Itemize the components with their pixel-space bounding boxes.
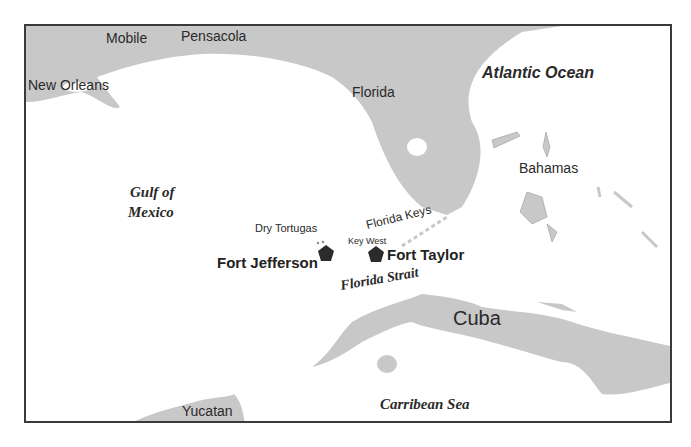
- dry-tortugas-islands: [322, 241, 324, 243]
- label-pensacola: Pensacola: [181, 28, 246, 44]
- label-cuba: Cuba: [453, 307, 501, 330]
- label-new-orleans: New Orleans: [28, 77, 109, 93]
- label-gulf-of-mexico-line1: Gulf of: [130, 184, 175, 201]
- label-caribbean-sea: Carribean Sea: [380, 396, 470, 413]
- lake-okeechobee: [407, 138, 427, 156]
- fort-jefferson-marker: [318, 245, 334, 261]
- bahamas-island: [547, 224, 557, 242]
- bahamas-island: [492, 132, 520, 148]
- us-mainland-land: [26, 26, 562, 215]
- label-gulf-of-mexico-line2: Mexico: [128, 204, 174, 221]
- label-mobile: Mobile: [106, 30, 147, 46]
- bahamas-island: [598, 187, 600, 197]
- map-frame: [24, 24, 672, 423]
- bahamas-island: [642, 232, 657, 247]
- label-atlantic-ocean: Atlantic Ocean: [482, 64, 594, 82]
- dry-tortugas-islands: [317, 242, 319, 244]
- fort-taylor-marker: [368, 246, 384, 262]
- label-yucatan: Yucatan: [182, 403, 233, 419]
- cuba-cays: [537, 302, 577, 312]
- label-dry-tortugas: Dry Tortugas: [255, 222, 317, 234]
- label-key-west: Key West: [348, 236, 386, 246]
- label-bahamas: Bahamas: [519, 160, 578, 176]
- bahamas-island: [520, 192, 547, 224]
- label-fort-jefferson: Fort Jefferson: [217, 254, 318, 271]
- map-land-shapes: [26, 26, 672, 423]
- isle-of-youth: [377, 355, 397, 373]
- label-florida: Florida: [352, 84, 395, 100]
- bahamas-island: [614, 192, 632, 207]
- label-fort-taylor: Fort Taylor: [387, 246, 464, 263]
- bahamas-island: [543, 132, 550, 157]
